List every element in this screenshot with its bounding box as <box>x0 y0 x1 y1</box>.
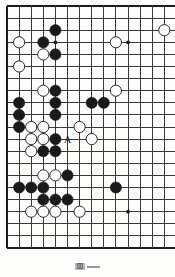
board-marker-letter: A <box>64 134 72 145</box>
white-stone[interactable] <box>110 37 121 48</box>
white-stone[interactable] <box>26 121 37 132</box>
white-stone[interactable] <box>74 206 85 217</box>
white-stone[interactable] <box>159 25 170 36</box>
black-stone[interactable] <box>14 109 25 120</box>
black-stone[interactable] <box>50 134 61 145</box>
caption-rule <box>87 266 100 268</box>
black-stone[interactable] <box>86 97 97 108</box>
white-stone[interactable] <box>26 134 37 145</box>
black-stone[interactable] <box>50 97 61 108</box>
white-stone[interactable] <box>14 61 25 72</box>
black-stone[interactable] <box>62 170 73 181</box>
black-stone[interactable] <box>26 182 37 193</box>
white-stone[interactable] <box>38 121 49 132</box>
figure-caption: 図 <box>0 256 175 277</box>
black-stone[interactable] <box>62 194 73 205</box>
black-stone[interactable] <box>14 182 25 193</box>
black-stone[interactable] <box>38 37 49 48</box>
white-stone[interactable] <box>50 170 61 181</box>
white-stone[interactable] <box>26 146 37 157</box>
white-stone[interactable] <box>50 206 61 217</box>
white-stone[interactable] <box>38 85 49 96</box>
black-stone[interactable] <box>50 85 61 96</box>
black-stone[interactable] <box>50 194 61 205</box>
star-point <box>54 40 58 44</box>
black-stone[interactable] <box>50 49 61 60</box>
black-stone[interactable] <box>98 97 109 108</box>
black-stone[interactable] <box>38 146 49 157</box>
white-stone[interactable] <box>38 170 49 181</box>
white-stone[interactable] <box>38 134 49 145</box>
white-stone[interactable] <box>26 206 37 217</box>
go-board[interactable]: A <box>0 0 175 250</box>
white-stone[interactable] <box>86 134 97 145</box>
black-stone[interactable] <box>14 97 25 108</box>
white-stone[interactable] <box>38 49 49 60</box>
go-diagram-figure: A 図 <box>0 0 175 277</box>
black-stone[interactable] <box>50 146 61 157</box>
white-stone[interactable] <box>110 85 121 96</box>
star-point <box>126 40 130 44</box>
black-stone[interactable] <box>110 182 121 193</box>
black-stone[interactable] <box>50 25 61 36</box>
star-point <box>126 210 130 214</box>
go-board-canvas[interactable]: A <box>0 0 175 250</box>
white-stone[interactable] <box>14 37 25 48</box>
caption-label-text: 図 <box>75 263 85 270</box>
black-stone[interactable] <box>14 121 25 132</box>
white-stone[interactable] <box>38 206 49 217</box>
black-stone[interactable] <box>38 194 49 205</box>
markers-layer: A <box>64 134 72 145</box>
white-stone[interactable] <box>74 121 85 132</box>
black-stone[interactable] <box>50 109 61 120</box>
black-stone[interactable] <box>38 182 49 193</box>
